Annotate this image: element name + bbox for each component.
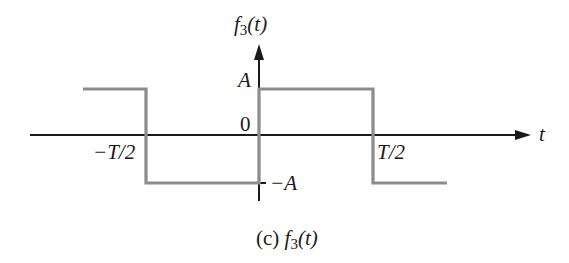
level-low-label: −A <box>270 173 297 194</box>
figure-caption: (c) f3(t) <box>256 228 318 252</box>
tick-pos-label: T/2 <box>377 142 405 163</box>
f-axis-arrowhead-icon <box>254 44 264 60</box>
plot-svg <box>0 0 569 263</box>
tick-neg-label: −T/2 <box>93 142 135 163</box>
square-wave-diagram: f3(t) A 0 −T/2 T/2 t −A (c) f3(t) <box>0 0 569 263</box>
x-axis-label: t <box>539 124 545 145</box>
origin-label: 0 <box>240 114 251 135</box>
level-high-label: A <box>238 70 251 91</box>
y-axis-label: f3(t) <box>234 14 267 38</box>
t-axis-arrowhead-icon <box>515 130 531 140</box>
